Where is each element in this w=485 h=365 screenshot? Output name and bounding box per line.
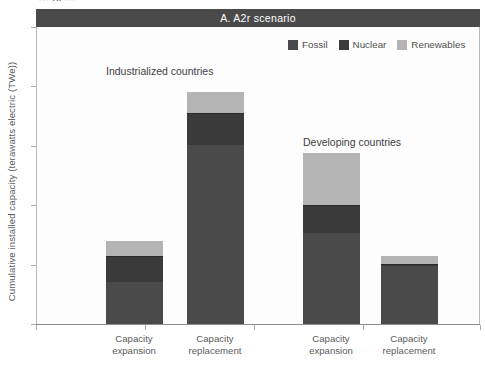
y-axis-title: Cumulative installed capacity (terawatts… <box>6 32 17 332</box>
chart-legend: FossilNuclearRenewables <box>288 39 465 50</box>
bar-segment-fossil <box>303 233 360 324</box>
x-tick-label-line2: replacement <box>169 345 261 357</box>
x-tick-label-line1: Capacity <box>363 333 455 345</box>
bar-segment-renewables <box>381 256 438 264</box>
x-tick-mark <box>254 325 255 330</box>
legend-entry: Renewables <box>397 39 465 50</box>
legend-label: Fossil <box>302 39 328 50</box>
x-tick-label-line1: Capacity <box>169 333 261 345</box>
x-tick-label-line2: replacement <box>363 345 455 357</box>
x-tick-label-line1: Capacity <box>88 333 180 345</box>
y-axis-line <box>36 27 37 325</box>
bar-segment-nuclear <box>303 205 360 232</box>
y-tick-mark <box>31 205 36 206</box>
legend-swatch-icon <box>288 40 298 50</box>
legend-entry: Nuclear <box>339 39 387 50</box>
bar-3 <box>303 153 360 324</box>
panel-title: A. A2r scenario <box>36 9 480 27</box>
y-tick-mark <box>31 265 36 266</box>
x-tick-label: Capacityexpansion <box>88 333 180 356</box>
bar-segment-nuclear <box>106 256 163 282</box>
x-tick-mark <box>36 325 37 330</box>
bar-1 <box>106 241 163 324</box>
bar-segment-renewables <box>187 92 244 112</box>
bar-segment-fossil <box>381 266 438 324</box>
legend-label: Renewables <box>411 39 465 50</box>
bar-segment-renewables <box>303 153 360 205</box>
x-tick-mark <box>363 325 364 330</box>
y-tick-mark <box>31 27 36 28</box>
legend-label: Nuclear <box>353 39 387 50</box>
bar-segment-nuclear <box>381 264 438 266</box>
chart-figure: … ol … A. A2r scenario Cumulative instal… <box>0 0 485 365</box>
legend-entry: Fossil <box>288 39 328 50</box>
x-tick-mark <box>480 325 481 330</box>
bar-segment-renewables <box>106 241 163 256</box>
bar-segment-nuclear <box>187 113 244 145</box>
x-tick-label: Capacityreplacement <box>363 333 455 356</box>
x-axis-line <box>36 324 480 325</box>
legend-swatch-icon <box>339 40 349 50</box>
x-tick-mark <box>145 325 146 330</box>
bar-2 <box>187 92 244 324</box>
bar-4 <box>381 256 438 324</box>
x-tick-label: Capacityreplacement <box>169 333 261 356</box>
clipped-header-text: … ol … <box>38 0 76 1</box>
y-tick-mark <box>31 146 36 147</box>
group-label-developing: Developing countries <box>303 136 401 148</box>
legend-swatch-icon <box>397 40 407 50</box>
group-label-industrialized: Industrialized countries <box>106 65 213 77</box>
x-tick-label-line2: expansion <box>88 345 180 357</box>
y-tick-mark <box>31 86 36 87</box>
bar-segment-fossil <box>106 282 163 324</box>
bar-segment-fossil <box>187 145 244 324</box>
